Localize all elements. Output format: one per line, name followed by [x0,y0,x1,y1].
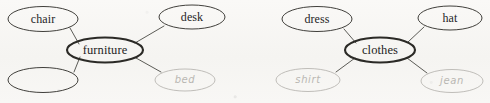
connector-line [136,58,161,72]
node-ellipse-chair[interactable] [8,7,78,32]
node-ellipse-hat[interactable] [418,6,482,30]
node-ellipse-shirt[interactable] [276,69,340,92]
connector-line [407,58,427,73]
node-ellipse-desk[interactable] [159,5,225,29]
node-ellipse-blank[interactable] [8,68,78,93]
word-web-worksheet: chairdeskbedfurnituredresshatshirtjeancl… [0,0,490,103]
ellipse-layer [8,5,483,93]
connector-line [135,26,164,43]
node-ellipse-jean[interactable] [421,70,483,93]
connector-line [336,58,355,72]
node-ellipse-bed[interactable] [155,69,215,91]
connector-line [408,27,424,42]
connector-layer [70,26,427,73]
hub-ellipse-undefined[interactable] [345,38,415,63]
word-web-canvas [0,0,490,103]
node-ellipse-dress[interactable] [282,7,352,32]
hub-ellipse-undefined[interactable] [67,38,143,63]
